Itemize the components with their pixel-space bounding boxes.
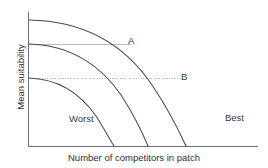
- chart-plot-area: [0, 0, 268, 168]
- curve-best: [29, 20, 186, 146]
- y-axis-label-wrapper: Mean suitability: [10, 17, 24, 137]
- curve-worst: [29, 78, 114, 146]
- annotation-label-best: Best: [225, 113, 244, 123]
- annotation-label-a: A: [128, 36, 134, 46]
- annotation-label-b: B: [181, 72, 187, 82]
- chart-figure: A B Worst Best Number of competitors in …: [0, 0, 268, 168]
- annotation-label-worst: Worst: [69, 114, 94, 124]
- x-axis-label: Number of competitors in patch: [0, 153, 268, 163]
- y-axis-label: Mean suitability: [16, 44, 26, 109]
